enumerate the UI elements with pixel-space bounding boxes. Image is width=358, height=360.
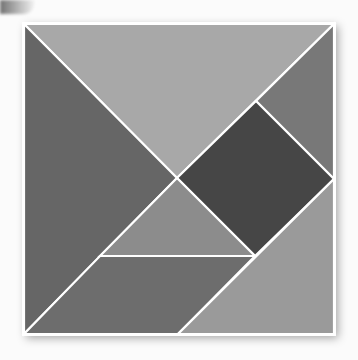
tangram-board	[0, 0, 358, 360]
tangram-pieces	[24, 24, 334, 334]
